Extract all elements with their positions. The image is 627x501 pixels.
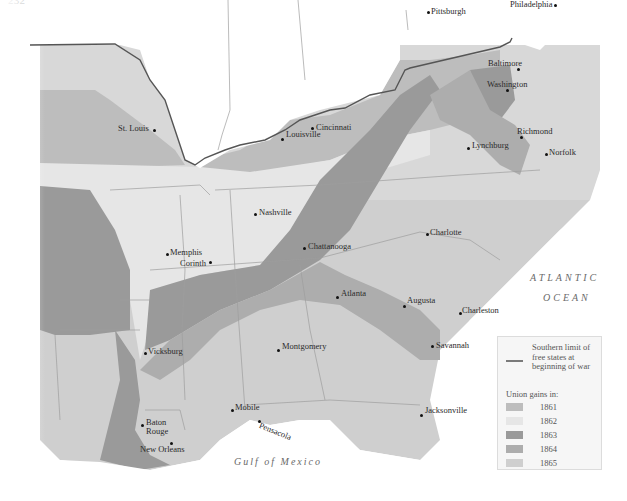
city-dot-atlanta [336, 296, 339, 299]
city-memphis: Memphis [170, 248, 202, 257]
city-dot-norfolk [545, 153, 548, 156]
city-philadelphia: Philadelphia [510, 0, 553, 9]
city-dot-pittsburgh [427, 11, 430, 14]
city-richmond: Richmond [517, 127, 552, 136]
swatch-1861 [506, 403, 523, 411]
free-state-limit-label: Southern limit of free states at beginni… [532, 343, 598, 372]
map-legend: Southern limit of free states at beginni… [497, 336, 602, 470]
city-dot-baton-rouge [141, 424, 144, 427]
city-dot-lynchburg [467, 147, 470, 150]
legend-item-1864: 1864 [506, 444, 596, 454]
city-louisville: Louisville [286, 130, 320, 139]
city-dot-baltimore [517, 68, 520, 71]
free-state-limit-swatch [506, 360, 523, 362]
swatch-1863 [506, 431, 523, 439]
city-baltimore: Baltimore [488, 59, 522, 68]
city-savannah: Savannah [436, 341, 469, 350]
city-dot-jacksonville [420, 414, 423, 417]
legend-item-1861: 1861 [506, 402, 596, 412]
swatch-1865 [506, 459, 523, 467]
city-dot-montgomery [277, 349, 280, 352]
label-ocean: OCEAN [543, 292, 591, 303]
city-dot-st-louis [153, 129, 156, 132]
legend-item-1863: 1863 [506, 430, 596, 440]
city-baton-rouge: Baton Rouge [146, 418, 176, 436]
city-charlotte: Charlotte [430, 228, 462, 237]
city-pittsburgh: Pittsburgh [431, 7, 466, 16]
label-gulf-of-mexico: Gulf of Mexico [234, 456, 322, 467]
city-dot-philadelphia [554, 4, 557, 7]
city-dot-charlotte [426, 233, 429, 236]
city-dot-memphis [166, 253, 169, 256]
city-dot-nashville [254, 213, 257, 216]
city-corinth: Corinth [180, 259, 206, 268]
swatch-1864 [506, 445, 523, 453]
city-st-louis: St. Louis [118, 124, 149, 133]
city-dot-washington [506, 89, 509, 92]
city-nashville: Nashville [259, 208, 292, 217]
legend-item-1865: 1865 [506, 458, 596, 468]
left-fade [0, 0, 45, 501]
swatch-1862 [506, 417, 523, 425]
city-lynchburg: Lynchburg [472, 141, 509, 150]
city-dot-augusta [403, 305, 406, 308]
city-dot-corinth [209, 261, 212, 264]
city-dot-richmond [520, 136, 523, 139]
legend-item-1862: 1862 [506, 416, 596, 426]
city-chattanooga: Chattanooga [308, 242, 351, 251]
city-dot-louisville [281, 138, 284, 141]
city-new-orleans: New Orleans [140, 445, 185, 454]
city-vicksburg: Vicksburg [148, 347, 183, 356]
city-dot-savannah [431, 345, 434, 348]
city-atlanta: Atlanta [341, 289, 366, 298]
city-charleston: Charleston [462, 306, 499, 315]
city-montgomery: Montgomery [282, 342, 326, 351]
city-jacksonville: Jacksonville [425, 406, 467, 415]
city-mobile: Mobile [235, 403, 260, 412]
city-norfolk: Norfolk [549, 148, 576, 157]
city-dot-chattanooga [303, 247, 306, 250]
city-dot-vicksburg [144, 352, 147, 355]
city-augusta: Augusta [407, 296, 435, 305]
label-atlantic: ATLANTIC [530, 272, 599, 283]
city-dot-mobile [231, 409, 234, 412]
union-gains-title: Union gains in: [506, 389, 558, 399]
city-cincinnati: Cincinnati [316, 123, 351, 132]
city-washington: Washington [487, 80, 527, 89]
